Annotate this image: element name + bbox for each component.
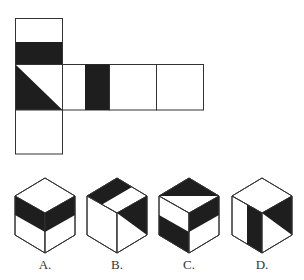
net-face-bottom	[16, 110, 63, 154]
cube-net	[16, 19, 204, 155]
net-face-middle-left	[16, 65, 63, 111]
net-face-row-3	[110, 65, 157, 111]
option-a-cube[interactable]	[15, 178, 75, 253]
option-a-label: A.	[39, 257, 52, 273]
net-face-row-4	[157, 65, 204, 111]
option-c-cube[interactable]	[159, 178, 219, 253]
option-c-label: C.	[183, 257, 195, 273]
option-b-label: B.	[111, 257, 123, 273]
option-d-cube[interactable]	[232, 178, 292, 253]
net-face-top	[16, 19, 63, 65]
option-d-label: D.	[256, 257, 269, 273]
net-face-row-2	[63, 65, 110, 111]
option-b-cube[interactable]	[87, 178, 147, 253]
cube-net-puzzle: A. B. C. D.	[0, 0, 304, 280]
